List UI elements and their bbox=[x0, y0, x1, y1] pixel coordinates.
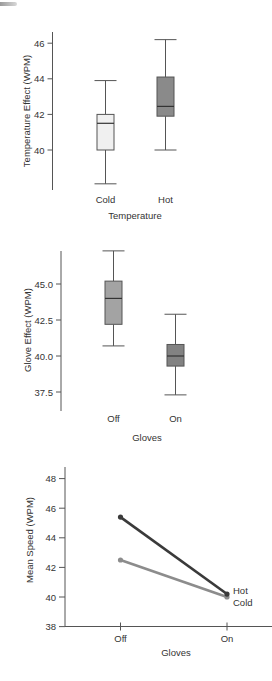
y-axis-title: Mean Speed (WPM) bbox=[24, 497, 35, 583]
y-tick-label: 46 bbox=[45, 503, 56, 514]
legend-label-cold: Cold bbox=[233, 597, 253, 608]
series-line bbox=[121, 517, 228, 594]
y-axis-title: Temperature Effect (WPM) bbox=[21, 55, 32, 167]
series-line bbox=[121, 560, 228, 597]
y-tick-label: 42 bbox=[34, 109, 45, 120]
y-tick-label: 40 bbox=[45, 592, 56, 603]
x-category-label: Cold bbox=[96, 194, 116, 205]
gloves-box-plot: 37.540.042.545.0 OffOn Glove Effect (WPM… bbox=[0, 230, 272, 450]
box-on bbox=[165, 314, 187, 395]
y-tick-label: 37.5 bbox=[35, 387, 54, 398]
box-plot-series bbox=[95, 40, 177, 184]
data-point-marker bbox=[118, 557, 123, 562]
y-tick-label: 44 bbox=[34, 73, 45, 84]
x-axis-categories: OffOn bbox=[107, 413, 182, 424]
y-tick-label: 45.0 bbox=[35, 279, 54, 290]
data-point-marker bbox=[118, 514, 123, 519]
box-off bbox=[103, 251, 125, 346]
x-axis-title: Gloves bbox=[132, 432, 162, 443]
series-cold bbox=[118, 557, 230, 599]
y-axis: 40424446 bbox=[34, 32, 53, 190]
x-category-label: Hot bbox=[158, 194, 173, 205]
x-category-label: Off bbox=[107, 413, 120, 424]
x-axis-categories: OffOn bbox=[114, 633, 233, 644]
y-tick-label: 40 bbox=[34, 145, 45, 156]
x-axis-categories: ColdHot bbox=[96, 194, 174, 205]
x-category-label: Off bbox=[114, 633, 127, 644]
data-point-marker bbox=[224, 591, 229, 596]
iqr-box bbox=[157, 77, 174, 116]
y-axis-title: Glove Effect (WPM) bbox=[22, 288, 33, 372]
box-hot bbox=[155, 40, 177, 150]
iqr-box bbox=[97, 114, 114, 150]
x-axis-title: Gloves bbox=[161, 647, 191, 658]
y-tick-label: 44 bbox=[45, 532, 56, 543]
line-series: HotCold bbox=[118, 514, 253, 608]
mean-speed-interaction-plot: 384042444648 HotCold OffOn Mean Speed (W… bbox=[0, 450, 272, 681]
temperature-box-plot: 40424446 ColdHot Temperature Effect (WPM… bbox=[0, 0, 272, 230]
y-tick-label: 40.0 bbox=[35, 351, 54, 362]
legend-label-hot: Hot bbox=[233, 585, 248, 596]
x-category-label: On bbox=[169, 413, 182, 424]
y-axis: 37.540.042.545.0 bbox=[35, 251, 62, 411]
box-cold bbox=[95, 81, 117, 184]
iqr-box bbox=[167, 344, 184, 366]
y-tick-label: 38 bbox=[45, 621, 56, 632]
x-category-label: On bbox=[221, 633, 234, 644]
iqr-box bbox=[105, 281, 122, 324]
x-axis-title: Temperature bbox=[108, 210, 161, 221]
y-tick-label: 42.5 bbox=[35, 315, 54, 326]
y-tick-label: 48 bbox=[45, 473, 56, 484]
y-tick-label: 42 bbox=[45, 562, 56, 573]
series-hot bbox=[118, 514, 230, 596]
y-tick-label: 46 bbox=[34, 38, 45, 49]
box-plot-series bbox=[103, 251, 187, 395]
